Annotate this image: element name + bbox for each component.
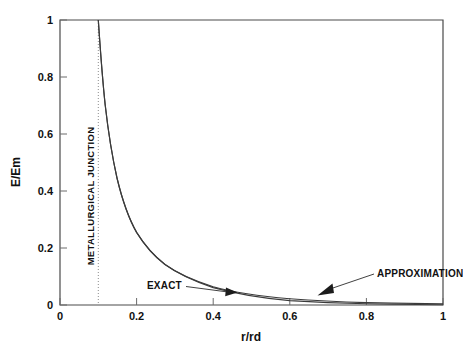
chart-figure: 0 0.2 0.4 0.6 0.8 1 0 0.2 0.4 0.6 0.8 1 … <box>0 0 463 353</box>
metallurgical-junction-label: METALLURGICAL JUNCTION <box>85 127 96 266</box>
y-tick-label-0: 0 <box>47 299 53 311</box>
y-tick-label-3: 0.6 <box>38 128 53 140</box>
exact-label: EXACT <box>147 280 182 291</box>
x-tick-label-5: 1 <box>440 310 446 322</box>
x-tick-label-1: 0.2 <box>129 310 144 322</box>
y-tick-label-4: 0.8 <box>38 71 53 83</box>
x-tick-label-4: 0.8 <box>359 310 374 322</box>
x-tick-label-0: 0 <box>57 310 63 322</box>
approximation-label: APPROXIMATION <box>377 268 463 279</box>
figure-background <box>0 0 463 353</box>
x-axis-title: r/rd <box>241 330 261 344</box>
y-tick-label-1: 0.2 <box>38 242 53 254</box>
x-tick-label-2: 0.4 <box>206 310 222 322</box>
y-tick-label-5: 1 <box>47 14 53 26</box>
y-axis-title: E/Em <box>9 157 23 187</box>
y-tick-label-2: 0.4 <box>38 185 54 197</box>
x-tick-label-3: 0.6 <box>282 310 297 322</box>
